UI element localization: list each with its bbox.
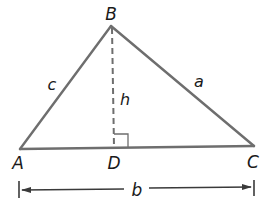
- arrowhead-left-icon: [21, 187, 31, 193]
- vertex-label-a: A: [11, 153, 24, 173]
- altitude-label-h: h: [120, 90, 130, 109]
- right-angle-marker: [114, 134, 128, 147]
- arrowhead-right-icon: [242, 184, 252, 190]
- dimension-line-right-segment: [149, 187, 251, 188]
- vertex-label-b: B: [105, 4, 117, 24]
- side-a-line: [111, 26, 254, 146]
- side-b-base-line: [20, 146, 254, 149]
- triangle-diagram: B A D C c a h b: [0, 0, 274, 210]
- side-label-a: a: [194, 72, 204, 91]
- side-c-line: [20, 26, 111, 149]
- dimension-line-left-segment: [22, 189, 124, 190]
- dimension-label-b: b: [132, 180, 143, 200]
- vertex-label-d: D: [107, 153, 120, 173]
- side-label-c: c: [48, 75, 57, 94]
- altitude-h-dashed-line: [112, 28, 114, 147]
- vertex-label-c: C: [247, 152, 259, 172]
